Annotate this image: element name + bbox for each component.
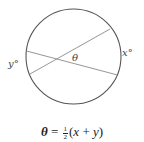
y-arc-label: y° [7, 58, 19, 69]
circle-diagram: θ x° y° [0, 0, 144, 142]
x-arc-label: x° [122, 47, 133, 58]
formula-plus: + [79, 124, 93, 139]
formula-theta: θ [41, 124, 48, 139]
theta-label: θ [72, 52, 78, 63]
formula: θ = 12(x + y) [0, 124, 144, 141]
formula-fraction: 12 [63, 126, 69, 141]
fraction-denominator: 2 [63, 134, 69, 141]
chord-2 [30, 29, 110, 74]
formula-close-paren: ) [99, 124, 103, 139]
formula-equals: = [48, 124, 62, 139]
